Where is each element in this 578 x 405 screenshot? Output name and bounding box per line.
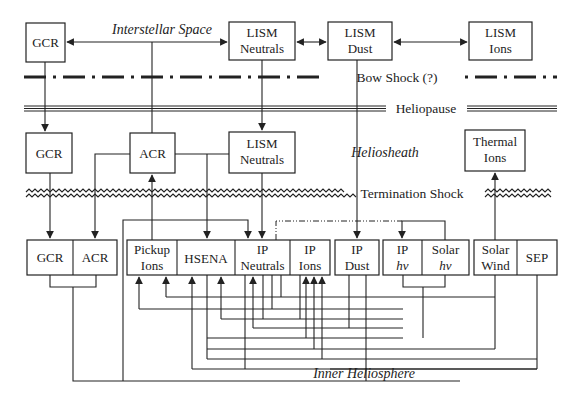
svg-text:Neutrals: Neutrals <box>240 152 284 167</box>
box-gcr-interstellar: GCR <box>26 23 65 62</box>
svg-text:ACR: ACR <box>139 146 166 161</box>
svg-text:Wind: Wind <box>481 258 510 273</box>
box-hsena: HSENA <box>184 251 228 266</box>
connectors <box>45 42 537 381</box>
box-ip-neutrals: IP <box>257 242 269 257</box>
heliosphere-diagram: Bow Shock (?) Heliopause Termination Sho… <box>0 0 578 405</box>
heliopause-label: Heliopause <box>396 101 457 116</box>
box-group-photons: IP hν Solar hν <box>383 240 469 275</box>
svg-text:Ions: Ions <box>484 150 506 165</box>
svg-text:Ions: Ions <box>299 258 321 273</box>
svg-text:Dust: Dust <box>345 258 370 273</box>
box-pickup-ions: Pickup <box>134 242 170 257</box>
svg-text:Thermal: Thermal <box>473 134 517 149</box>
box-solar-hv: Solar <box>432 242 460 257</box>
box-lism-ions: LISM Ions <box>469 22 532 60</box>
box-ip-ions: IP <box>304 242 316 257</box>
box-thermal-ions: Thermal Ions <box>465 130 525 171</box>
box-lism-neutrals-interstellar: LISM Neutrals <box>229 22 295 60</box>
heliopause-line <box>24 106 557 111</box>
region-interstellar-space: Interstellar Space <box>111 22 212 37</box>
box-lism-neutrals-heliosheath: LISM Neutrals <box>229 132 295 173</box>
bow-shock-label: Bow Shock (?) <box>357 70 438 85</box>
region-heliosheath: Heliosheath <box>350 145 419 160</box>
box-acr-inner: ACR <box>82 250 109 265</box>
svg-text:LISM: LISM <box>344 25 376 40</box>
box-group-gcr-acr-inner: GCR ACR <box>27 240 117 275</box>
box-gcr-inner: GCR <box>37 250 64 265</box>
svg-text:hν: hν <box>439 258 452 273</box>
svg-text:Dust: Dust <box>348 41 373 56</box>
svg-text:Ions: Ions <box>489 41 511 56</box>
box-group-particles: Pickup Ions HSENA IP Neutrals IP Ions <box>127 240 330 275</box>
box-gcr-heliosheath: GCR <box>26 133 72 173</box>
termination-shock-line <box>26 189 551 197</box>
box-sep: SEP <box>526 250 548 265</box>
box-ip-hv: IP <box>397 242 409 257</box>
box-lism-dust: LISM Dust <box>328 22 392 60</box>
svg-text:GCR: GCR <box>36 146 63 161</box>
box-group-solar: Solar Wind SEP <box>474 240 557 275</box>
svg-text:GCR: GCR <box>32 35 59 50</box>
termination-shock-label: Termination Shock <box>361 186 464 201</box>
region-inner-heliosphere: Inner Heliosphere <box>312 366 415 381</box>
svg-text:hν: hν <box>396 258 409 273</box>
svg-text:Neutrals: Neutrals <box>240 258 284 273</box>
svg-text:Ions: Ions <box>141 258 163 273</box>
box-solar-wind: Solar <box>482 242 510 257</box>
svg-text:Neutrals: Neutrals <box>240 41 284 56</box>
svg-text:LISM: LISM <box>246 25 278 40</box>
svg-text:IP: IP <box>351 242 363 257</box>
box-acr-heliosheath: ACR <box>130 133 175 173</box>
box-ip-dust: IP Dust <box>335 240 379 275</box>
svg-text:LISM: LISM <box>485 25 517 40</box>
svg-text:LISM: LISM <box>246 136 278 151</box>
